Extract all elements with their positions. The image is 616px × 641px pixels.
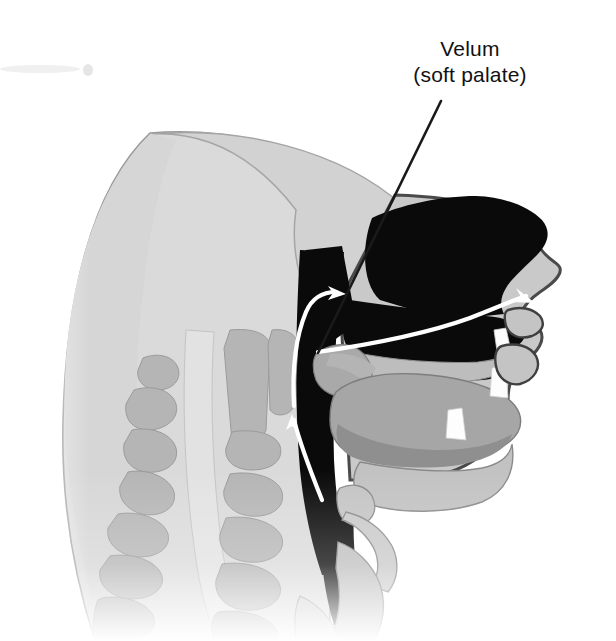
- lower-lip: [495, 344, 538, 384]
- upper-lip: [505, 308, 543, 338]
- left-fade: [0, 100, 90, 641]
- lower-canine: [446, 408, 466, 440]
- scan-smudge-top-left: [0, 64, 93, 76]
- callout-velum-line1: Velum: [355, 36, 585, 62]
- callout-velum-line2: (soft palate): [355, 62, 585, 88]
- callout-velum: Velum (soft palate): [355, 36, 585, 88]
- vocal-tract-figure: Velum (soft palate): [0, 0, 616, 641]
- anatomy-illustration: [0, 0, 616, 641]
- bottom-fade: [0, 470, 616, 641]
